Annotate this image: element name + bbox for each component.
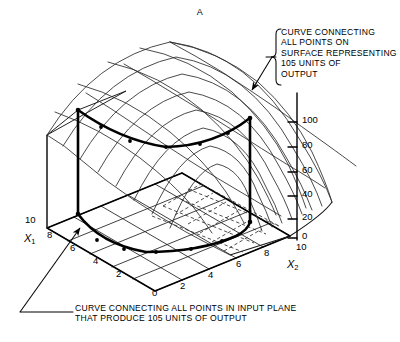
isoquant-on-input-plane <box>78 214 250 252</box>
output-tick-60: 60 <box>302 165 313 176</box>
x1-tick-2: 2 <box>116 269 121 280</box>
axis-label-x2: X2 <box>287 258 299 272</box>
back-wall-left <box>47 91 126 228</box>
output-tick-40: 40 <box>302 189 313 200</box>
contour-node-markers <box>76 108 253 149</box>
origin-tick-0: 0 <box>152 288 157 299</box>
callout-bracket-top <box>266 29 281 85</box>
output-tick-20: 20 <box>302 212 313 223</box>
axis-label-x1: X1 <box>24 232 36 246</box>
callout-top-right-text: CURVE CONNECTING ALL POINTS ON SURFACE R… <box>281 27 399 79</box>
x2-tick-8: 8 <box>264 248 269 259</box>
output-tick-100: 100 <box>302 115 318 126</box>
x1-tick-8: 8 <box>47 230 52 241</box>
base-plane-outline <box>47 173 290 291</box>
callout-bottom-left-text: CURVE CONNECTING ALL POINTS IN INPUT PLA… <box>75 303 395 324</box>
x1-tick-4: 4 <box>93 256 98 267</box>
output-tick-80: 80 <box>302 140 313 151</box>
x2-tick-10: 10 <box>296 242 307 253</box>
base-plane-grid <box>47 173 290 291</box>
x2-tick-6: 6 <box>236 259 241 270</box>
figure-panel: A <box>0 0 400 342</box>
output-tick-0: 0 <box>302 231 307 242</box>
axis-label-x2-sub: 2 <box>294 263 298 272</box>
x2-tick-2: 2 <box>180 281 185 292</box>
axis-label-x1-sub: 1 <box>31 237 35 246</box>
x2-tick-4: 4 <box>208 270 213 281</box>
x1-tick-6: 6 <box>70 243 75 254</box>
x1-tick-10: 10 <box>25 215 36 226</box>
iso-output-contour-on-surface <box>78 110 250 147</box>
